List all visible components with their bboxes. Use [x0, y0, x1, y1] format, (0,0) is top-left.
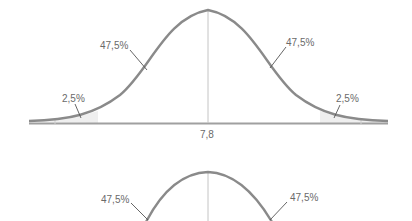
top-left-center-label: 47,5%: [100, 40, 128, 51]
top-distribution: 47,5% 47,5% 2,5% 2,5% 7,8: [29, 10, 388, 140]
top-right-center-label: 47,5%: [286, 37, 314, 48]
bottom-right-center-label: 47,5%: [290, 192, 318, 203]
normal-distribution-diagram: 47,5% 47,5% 2,5% 2,5% 7,8 47,5% 47,5%: [0, 0, 412, 221]
top-right-tail-label: 2,5%: [336, 93, 359, 104]
right-center-leader: [270, 47, 286, 68]
bottom-right-leader: [270, 202, 287, 220]
bottom-bell-curve: [146, 172, 272, 221]
top-left-tail-label: 2,5%: [62, 93, 85, 104]
bottom-left-leader: [131, 203, 148, 220]
bottom-distribution: 47,5% 47,5%: [101, 172, 318, 221]
left-center-leader: [130, 50, 147, 70]
top-mean-label: 7,8: [200, 129, 214, 140]
bottom-left-center-label: 47,5%: [101, 194, 129, 205]
